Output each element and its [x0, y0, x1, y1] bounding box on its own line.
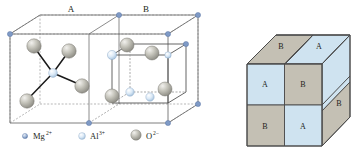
legend-charge-o: 2− — [153, 130, 159, 136]
mg-corner-ions — [7, 12, 200, 125]
cube-label-front-top-right: B — [300, 80, 305, 89]
cube-label-right-lower: B — [336, 99, 341, 108]
cube-label-front-bottom-left: B — [262, 122, 267, 131]
cube-label-top-left: B — [278, 42, 283, 51]
legend-swatch-al — [79, 133, 86, 140]
spinel-unit-cell-octants: A B — [7, 4, 200, 126]
legend-charge-mg: 2+ — [46, 130, 52, 136]
cube-label-top-right: A — [316, 42, 322, 51]
legend-charge-al: 3+ — [99, 130, 105, 136]
legend-label-mg: Mg — [33, 131, 46, 141]
hidden-edges — [10, 15, 198, 123]
octant-label-a: A — [68, 4, 75, 14]
ion-legend: Mg 2+ Al 3+ O 2− — [22, 130, 159, 141]
legend-label-al: Al — [90, 131, 99, 141]
legend-label-o: O — [146, 131, 152, 141]
legend-swatch-o — [131, 130, 141, 140]
unit-cell-outline — [10, 15, 198, 123]
octant-label-b: B — [143, 4, 149, 14]
cube-label-front-top-left: A — [262, 80, 268, 89]
octant-divider-plane — [89, 15, 119, 123]
octant-alternation-cube: A B B A B A B — [247, 35, 350, 146]
legend-swatch-mg — [22, 133, 27, 138]
crystal-structure-figure: A B Mg 2+ Al 3+ O 2− — [0, 0, 359, 151]
cube-label-front-bottom-right: A — [300, 122, 306, 131]
